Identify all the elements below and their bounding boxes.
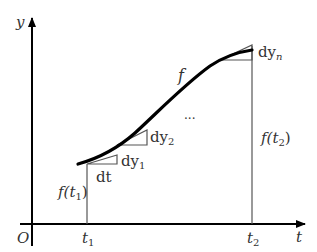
- y-axis-label: y: [15, 13, 25, 31]
- tick-label-t2: t2: [247, 229, 259, 248]
- tick-label-t1: t1: [82, 229, 94, 248]
- f-t2-label: f(t2): [260, 129, 291, 148]
- dy1-label: dy1: [121, 152, 145, 171]
- dt-label: dt: [96, 168, 112, 186]
- curve-f: [78, 50, 252, 164]
- dyn-label: dyn: [258, 43, 283, 62]
- curve-label-f: f: [177, 66, 187, 85]
- origin-label: O: [17, 229, 29, 247]
- ellipsis-label: ...: [184, 108, 195, 122]
- diagram-canvas: y t O t1 t2 f ... f(t1) f(t2) dt dy1 dy2…: [0, 0, 317, 252]
- t-axis-label: t: [296, 228, 303, 246]
- f-t1-label: f(t1): [57, 183, 88, 202]
- dy2-label: dy2: [150, 128, 174, 147]
